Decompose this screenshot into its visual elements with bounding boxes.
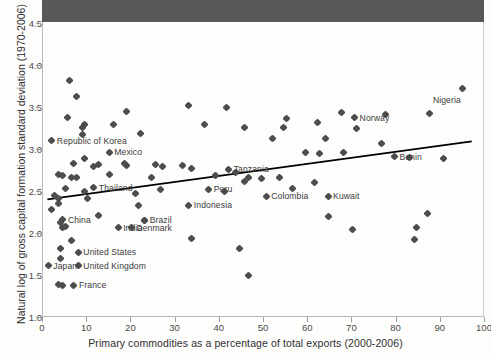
data-point — [59, 282, 66, 289]
data-point — [283, 115, 290, 122]
data-point-labeled — [351, 114, 358, 121]
data-point-label: Indonesia — [194, 200, 232, 210]
x-tick-mark — [219, 317, 220, 322]
data-point — [55, 200, 62, 207]
data-point-labeled — [48, 137, 55, 144]
data-point-labeled — [185, 202, 192, 209]
data-point — [132, 190, 139, 197]
data-point — [311, 179, 318, 186]
data-point — [269, 135, 276, 142]
y-tick-mark — [36, 149, 41, 150]
data-point — [241, 178, 248, 185]
data-point — [68, 237, 75, 244]
data-point — [413, 224, 420, 231]
data-point — [322, 135, 329, 142]
y-tick-mark — [36, 275, 41, 276]
data-point-label: Nigeria — [433, 95, 461, 105]
x-tick-mark — [484, 317, 485, 322]
x-tick-label: 80 — [390, 322, 401, 333]
x-tick-label: 50 — [258, 322, 269, 333]
data-point-labeled — [459, 85, 466, 92]
data-point-label: Japan — [53, 261, 77, 271]
data-point-labeled — [115, 224, 122, 231]
data-point-labeled — [325, 192, 332, 199]
data-point — [185, 102, 192, 109]
data-point — [276, 174, 283, 181]
x-tick-mark — [351, 317, 352, 322]
data-point-label: Kuwait — [333, 191, 359, 201]
x-tick-mark — [307, 317, 308, 322]
plot-area: Republic of KoreaMexicoThailandChinaIndi… — [42, 0, 484, 317]
data-point — [340, 149, 347, 156]
data-point — [73, 174, 80, 181]
x-tick-mark — [86, 317, 87, 322]
data-point — [148, 174, 155, 181]
data-point — [152, 161, 159, 168]
data-point — [236, 245, 243, 252]
data-point — [302, 149, 309, 156]
data-point-label: Republic of Korea — [57, 136, 127, 146]
data-point — [134, 202, 141, 209]
data-point — [84, 195, 91, 202]
x-tick-mark — [42, 317, 43, 322]
data-point — [201, 121, 208, 128]
data-point-labeled — [70, 282, 77, 289]
data-point-label: Norway — [360, 113, 390, 123]
data-point-label: United States — [83, 247, 136, 257]
data-point — [313, 119, 320, 126]
x-tick-label: 60 — [302, 322, 313, 333]
data-point-labeled — [45, 262, 52, 269]
data-point — [57, 245, 64, 252]
data-point-label: Tanzania — [234, 164, 269, 174]
data-point-labeled — [90, 184, 97, 191]
data-point — [106, 171, 113, 178]
data-point — [439, 155, 446, 162]
data-point — [426, 110, 433, 117]
y-tick-mark — [36, 191, 41, 192]
data-point-labeled — [205, 186, 212, 193]
x-tick-label: 90 — [435, 322, 446, 333]
y-tick-mark — [36, 317, 41, 318]
data-point — [159, 163, 166, 170]
data-point — [245, 272, 252, 279]
data-point — [316, 150, 323, 157]
data-point-labeled — [75, 249, 82, 256]
data-point — [338, 108, 345, 115]
data-point — [223, 104, 230, 111]
y-tick-mark — [36, 233, 41, 234]
data-point — [123, 162, 130, 169]
x-tick-label: 100 — [476, 322, 491, 333]
data-point-labeled — [391, 153, 398, 160]
data-point-label: France — [79, 280, 106, 290]
data-point-label: Benin — [399, 152, 421, 162]
x-tick-mark — [263, 317, 264, 322]
x-tick-label: 20 — [125, 322, 136, 333]
data-point — [241, 124, 248, 131]
data-point — [378, 140, 385, 147]
x-tick-mark — [440, 317, 441, 322]
x-tick-label: 70 — [346, 322, 357, 333]
x-tick-mark — [175, 317, 176, 322]
data-point — [188, 235, 195, 242]
data-point-label: China — [68, 215, 91, 225]
x-tick-label: 30 — [169, 322, 180, 333]
data-point — [188, 165, 195, 172]
data-point-label: United Kingdom — [83, 261, 146, 271]
data-point-label: Thailand — [99, 183, 133, 193]
data-point — [179, 162, 186, 169]
data-point-label: Brazil — [150, 215, 172, 225]
data-point-label: Peru — [214, 184, 233, 194]
data-point — [123, 108, 130, 115]
header-band — [42, 0, 484, 22]
data-point-label: Mexico — [114, 147, 142, 157]
data-point — [157, 186, 164, 193]
x-tick-mark — [396, 317, 397, 322]
data-point — [73, 93, 80, 100]
data-point — [212, 171, 219, 178]
data-point — [137, 130, 144, 137]
y-tick-mark — [36, 107, 41, 108]
data-point — [81, 155, 88, 162]
data-point-labeled — [263, 192, 270, 199]
x-tick-mark — [130, 317, 131, 322]
data-point — [349, 226, 356, 233]
